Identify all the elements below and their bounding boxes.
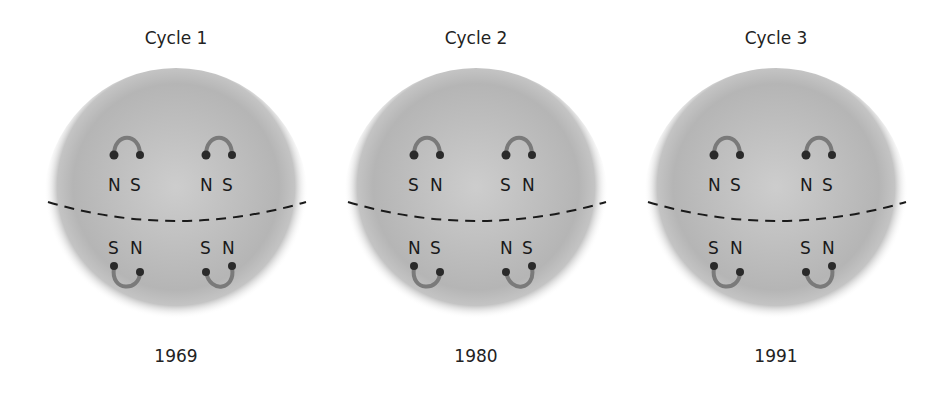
pole-label: N bbox=[500, 238, 513, 258]
pole-label: S bbox=[730, 175, 741, 195]
pole-label: N bbox=[200, 175, 213, 195]
cycle-panel-3: Cycle 3 N S N S S N S N 1991 bbox=[626, 0, 926, 393]
pole-label: N bbox=[522, 175, 535, 195]
pole-label: S bbox=[708, 238, 719, 258]
pole-label: S bbox=[222, 175, 233, 195]
cycle-title: Cycle 2 bbox=[326, 28, 626, 48]
pole-label: N bbox=[800, 175, 813, 195]
sun-sphere: S N S N N S N S bbox=[326, 60, 626, 340]
cycle-panel-2: Cycle 2 S N S N N S N S 1980 bbox=[326, 0, 626, 393]
cycle-year: 1969 bbox=[26, 346, 326, 366]
pole-label: S bbox=[108, 238, 119, 258]
cycle-year: 1980 bbox=[326, 346, 626, 366]
pole-label: N bbox=[222, 238, 235, 258]
cycle-title: Cycle 3 bbox=[626, 28, 926, 48]
cycle-year: 1991 bbox=[626, 346, 926, 366]
sun-sphere: N S N S S N S N bbox=[26, 60, 326, 340]
pole-label: N bbox=[708, 175, 721, 195]
pole-label: S bbox=[500, 175, 511, 195]
pole-label: N bbox=[130, 238, 143, 258]
cycle-panel-1: Cycle 1 N S N S S N S N 1969 bbox=[26, 0, 326, 393]
pole-label: N bbox=[408, 238, 421, 258]
sun-sphere: N S N S S N S N bbox=[626, 60, 926, 340]
pole-label: S bbox=[200, 238, 211, 258]
pole-label: S bbox=[408, 175, 419, 195]
pole-label: S bbox=[430, 238, 441, 258]
cycle-title: Cycle 1 bbox=[26, 28, 326, 48]
pole-label: N bbox=[108, 175, 121, 195]
pole-label: S bbox=[522, 238, 533, 258]
pole-label: S bbox=[130, 175, 141, 195]
pole-label: N bbox=[730, 238, 743, 258]
pole-label: S bbox=[800, 238, 811, 258]
pole-label: N bbox=[430, 175, 443, 195]
pole-label: N bbox=[822, 238, 835, 258]
pole-label: S bbox=[822, 175, 833, 195]
